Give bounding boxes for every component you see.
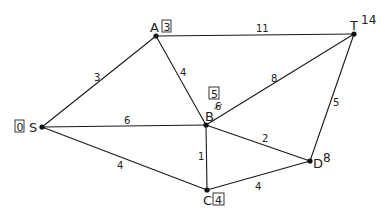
edge-s-c: [42, 127, 207, 190]
weight-a-b: 4: [180, 67, 186, 78]
distance-c: 4: [215, 194, 222, 207]
weight-s-b: 6: [124, 115, 130, 126]
node-label-d: D: [313, 156, 323, 171]
distance-a: 3: [164, 21, 171, 34]
edge-a-t: [156, 34, 354, 36]
node-c: [204, 187, 209, 192]
distance-s: 0: [17, 121, 24, 134]
edge-b-t: [206, 34, 354, 125]
node-d: [307, 158, 312, 163]
weight-a-t: 11: [256, 23, 269, 34]
weight-s-a: 3: [94, 72, 100, 83]
distance-d: 8: [323, 151, 331, 165]
node-label-s: S: [29, 120, 37, 135]
edge-b-d: [206, 125, 310, 161]
edge-b-c: [206, 125, 207, 190]
weight-c-d: 4: [255, 181, 261, 192]
distance-b: 5: [211, 88, 218, 101]
node-label-a: A: [150, 20, 159, 35]
edge-d-t: [310, 34, 354, 161]
edge-a-b: [156, 36, 206, 125]
weight-d-t: 5: [333, 97, 339, 108]
node-label-t: T: [349, 18, 358, 33]
weight-b-d: 2: [262, 133, 268, 144]
node-label-b: B: [205, 109, 214, 124]
node-s: [39, 124, 44, 129]
distance-t: 14: [361, 13, 376, 27]
weight-s-c: 4: [117, 160, 123, 171]
node-label-c: C: [203, 193, 212, 208]
weight-b-t: 8: [271, 73, 277, 84]
graph-diagram: 3 6 4 4 11 8 1 2 4 5 0 S A 3 5 B 6 C 4 D…: [0, 0, 385, 217]
weight-b-c: 1: [198, 151, 204, 162]
